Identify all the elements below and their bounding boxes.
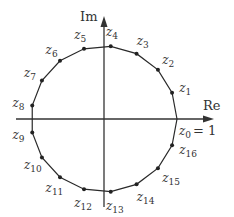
- root-label-z4: z4: [105, 25, 118, 41]
- root-label-z13: z13: [105, 199, 124, 215]
- root-label-z10: z10: [23, 158, 42, 174]
- root-label-z0: z0= 1: [178, 123, 216, 140]
- roots-of-unity-diagram: Re Im z0= 1z1z2z3z4z5z6z7z8z9z10z11z12z1…: [0, 0, 234, 217]
- root-point-z1: [170, 91, 174, 95]
- root-point-z14: [135, 182, 139, 186]
- root-point-z10: [40, 155, 44, 159]
- root-point-z6: [58, 59, 62, 63]
- root-labels: z0= 1z1z2z3z4z5z6z7z8z9z10z11z12z13z14z1…: [11, 25, 216, 214]
- root-point-z13: [109, 190, 113, 194]
- root-label-z3: z3: [136, 34, 149, 50]
- root-point-z2: [156, 68, 160, 72]
- root-label-z7: z7: [23, 66, 36, 82]
- root-point-z12: [82, 187, 86, 191]
- root-label-z12: z12: [73, 196, 92, 212]
- root-label-z8: z8: [11, 96, 24, 112]
- root-point-z3: [135, 52, 139, 56]
- root-label-z1: z1: [178, 81, 191, 97]
- root-point-z8: [30, 104, 34, 108]
- root-point-z16: [170, 143, 174, 147]
- root-point-z4: [109, 44, 113, 48]
- root-point-z9: [30, 130, 34, 134]
- root-point-z15: [156, 166, 160, 170]
- root-label-z6: z6: [45, 43, 58, 59]
- root-label-z11: z11: [45, 181, 64, 197]
- root-label-z9: z9: [11, 128, 24, 144]
- real-axis-arrow-icon: [203, 116, 214, 123]
- root-point-z5: [82, 47, 86, 51]
- root-label-z5: z5: [73, 28, 86, 44]
- root-point-z11: [58, 175, 62, 179]
- real-axis-label: Re: [203, 98, 221, 113]
- root-label-z2: z2: [161, 53, 174, 69]
- axes: Re Im: [16, 9, 221, 207]
- root-label-z16: z16: [178, 143, 197, 159]
- root-label-z14: z14: [136, 190, 155, 206]
- root-point-z7: [40, 79, 44, 83]
- imaginary-axis-label: Im: [80, 9, 97, 24]
- root-label-z15: z15: [161, 171, 180, 187]
